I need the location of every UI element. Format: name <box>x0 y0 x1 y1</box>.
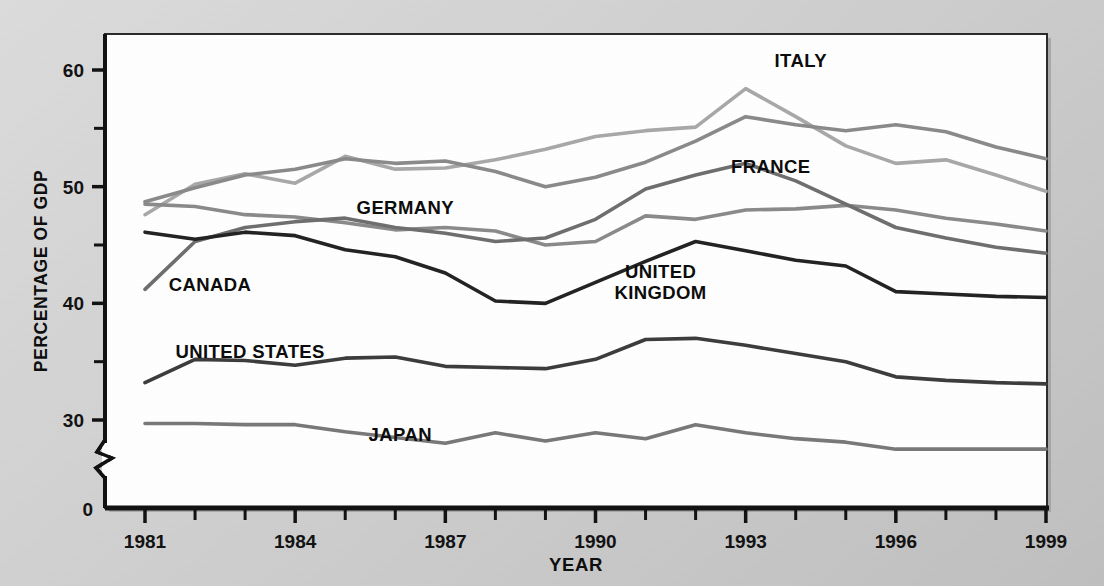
series-label-germany: GERMANY <box>357 197 455 218</box>
series-label-canada: CANADA <box>169 274 252 295</box>
line-chart: 60504030 1981198419871990199319961999 IT… <box>0 0 1104 586</box>
x-axis-title: YEAR <box>549 554 603 575</box>
series-label-italy: ITALY <box>775 50 828 71</box>
x-tick-label: 1990 <box>574 531 616 552</box>
x-axis-tick-labels: 1981198419871990199319961999 <box>124 531 1067 552</box>
y-tick-label: 40 <box>63 293 84 314</box>
x-tick-label: 1981 <box>124 531 167 552</box>
x-tick-label: 1987 <box>424 531 466 552</box>
x-tick-label: 1984 <box>274 531 317 552</box>
chart-page: 60504030 1981198419871990199319961999 IT… <box>0 0 1104 586</box>
series-label-france: FRANCE <box>731 156 810 177</box>
series-label-japan: JAPAN <box>369 424 432 445</box>
y-tick-label: 50 <box>63 177 84 198</box>
y-axis-title: PERCENTAGE OF GDP <box>31 170 51 372</box>
x-tick-label: 1996 <box>875 531 917 552</box>
y-tick-label: 60 <box>63 60 84 81</box>
y-axis-tick-labels: 60504030 <box>63 60 84 431</box>
series-label-united-kingdom: UNITEDKINGDOM <box>614 261 706 303</box>
series-label-united-states: UNITED STATES <box>175 341 324 362</box>
y-tick-label: 30 <box>63 410 84 431</box>
x-tick-label: 1993 <box>725 531 767 552</box>
y-axis-zero-label: 0 <box>82 499 93 520</box>
x-tick-label: 1999 <box>1025 531 1067 552</box>
